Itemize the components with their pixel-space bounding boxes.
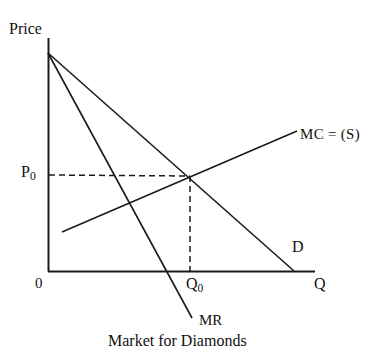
quantity-level-letter: Q: [186, 275, 198, 292]
origin-label: 0: [35, 276, 43, 291]
demand-curve-label: D: [292, 239, 304, 255]
figure-caption: Market for Diamonds: [108, 333, 247, 349]
price-guide-dashed-line: [49, 175, 190, 176]
marginal-cost-curve: [62, 131, 297, 232]
quantity-level-label: Q0: [186, 276, 203, 295]
marginal-cost-curve-label: MC = (S): [300, 127, 360, 142]
x-axis-label: Q: [314, 276, 326, 292]
economics-diagram: Price P0 0 Q0 Q D MC = (S) MR Market for…: [0, 0, 383, 361]
price-level-subscript: 0: [30, 170, 36, 182]
y-axis-label: Price: [9, 21, 42, 37]
diagram-canvas: [0, 0, 383, 361]
quantity-level-subscript: 0: [198, 282, 204, 294]
price-level-label: P0: [21, 164, 36, 183]
demand-curve: [48, 53, 294, 271]
marginal-revenue-curve-label: MR: [199, 313, 222, 328]
price-level-letter: P: [21, 163, 30, 180]
